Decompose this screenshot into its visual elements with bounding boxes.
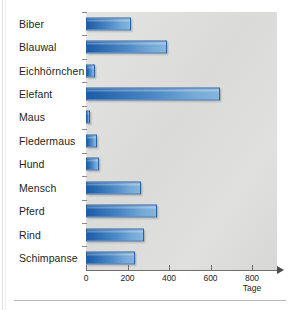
x-axis-tick (128, 265, 129, 270)
bar-track (86, 129, 299, 152)
x-axis-tick (252, 265, 253, 270)
bar (86, 64, 95, 77)
bar-track (86, 106, 299, 129)
bar-row: Elefant (0, 82, 299, 105)
bar-track (86, 59, 299, 82)
bar-row: Hund (0, 153, 299, 176)
footer-rule (14, 300, 286, 301)
bar-row: Blauwal (0, 35, 299, 58)
bar-row: Pferd (0, 200, 299, 223)
bar-category-label: Mensch (0, 182, 80, 194)
bar (86, 158, 99, 171)
bar (86, 228, 144, 241)
bar-category-label: Elefant (0, 88, 80, 100)
bar-category-label: Rind (0, 229, 80, 241)
bar-row: Rind (0, 223, 299, 246)
x-axis-tick-label: 600 (203, 273, 217, 283)
bar-row: Schimpanse (0, 246, 299, 269)
x-axis-tick (211, 265, 212, 270)
x-axis-tick-label: 200 (120, 273, 134, 283)
x-axis-tick-label: 400 (162, 273, 176, 283)
bar-rows-container: BiberBlauwalEichhörnchenElefantMausFlede… (0, 12, 299, 270)
bar (86, 17, 131, 30)
bar (86, 134, 97, 147)
x-axis-unit-label: Tage (243, 283, 261, 293)
bar (86, 205, 157, 218)
bar (86, 88, 220, 101)
x-axis-tick (169, 265, 170, 270)
bar-category-label: Biber (0, 18, 80, 30)
bar (86, 111, 90, 124)
bar-track (86, 223, 299, 246)
bar-category-label: Blauwal (0, 41, 80, 53)
bar-row: Eichhörnchen (0, 59, 299, 82)
bar (86, 41, 167, 54)
x-axis-tick (86, 265, 87, 270)
bar-track (86, 35, 299, 58)
bar-track (86, 12, 299, 35)
x-axis-tick-label: 800 (245, 273, 259, 283)
bar-category-label: Fledermaus (0, 135, 80, 147)
x-axis-arrow-icon (277, 266, 284, 274)
bar-category-label: Maus (0, 111, 80, 123)
bar-row: Biber (0, 12, 299, 35)
bar-track (86, 176, 299, 199)
bar-category-label: Hund (0, 158, 80, 170)
bar-category-label: Pferd (0, 205, 80, 217)
bar-track (86, 82, 299, 105)
bar (86, 181, 141, 194)
bar-category-label: Eichhörnchen (0, 65, 80, 77)
bar-track (86, 153, 299, 176)
x-axis-line (86, 270, 281, 271)
bar-row: Fledermaus (0, 129, 299, 152)
bar-track (86, 246, 299, 269)
bar (86, 252, 135, 265)
bar-category-label: Schimpanse (0, 252, 80, 264)
bar-row: Mensch (0, 176, 299, 199)
bar-row: Maus (0, 106, 299, 129)
bar-chart-figure: BiberBlauwalEichhörnchenElefantMausFlede… (0, 0, 299, 310)
x-axis-tick-label: 0 (84, 273, 89, 283)
bar-track (86, 200, 299, 223)
